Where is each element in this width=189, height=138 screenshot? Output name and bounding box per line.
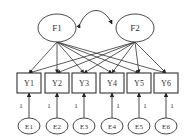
indicator-y4: Y4: [100, 73, 124, 93]
error-e1: E11: [18, 93, 40, 134]
error-weight: 1: [170, 102, 174, 110]
indicator-y2: Y2: [45, 73, 69, 93]
error-label: E5: [135, 123, 143, 131]
indicator-label: Y5: [134, 79, 144, 88]
sem-diagram: F1 F2 Y1E11Y2E21Y3E31Y4E41Y5E51Y6E61: [0, 0, 189, 138]
error-label: E4: [108, 123, 116, 131]
error-label: E3: [80, 123, 88, 131]
error-e5: E51: [128, 93, 150, 134]
covariance-arrow: [80, 11, 112, 25]
error-e4: E41: [101, 93, 123, 134]
factor-loadings: [29, 42, 166, 73]
error-label: E1: [25, 123, 33, 131]
error-weight: 1: [116, 102, 120, 110]
error-weight: 1: [19, 102, 23, 110]
error-weight: 1: [143, 102, 147, 110]
factor-f2: F2: [116, 14, 154, 42]
indicator-label: Y2: [52, 79, 62, 88]
loading-arrow: [57, 42, 112, 73]
indicator-y5: Y5: [127, 73, 151, 93]
error-weight: 1: [47, 102, 51, 110]
indicator-label: Y1: [24, 79, 34, 88]
indicator-label: Y6: [161, 79, 171, 88]
error-label: E2: [53, 123, 61, 131]
loading-arrow: [57, 42, 84, 73]
error-e6: E61: [155, 93, 177, 134]
error-weight: 1: [74, 102, 78, 110]
indicator-y1: Y1: [17, 73, 41, 93]
indicator-label: Y4: [107, 79, 117, 88]
loading-arrow: [29, 42, 57, 73]
factor-label: F1: [52, 23, 62, 33]
error-e2: E21: [46, 93, 68, 134]
loading-arrow: [57, 42, 166, 73]
error-label: E6: [162, 123, 170, 131]
factor-label: F2: [130, 23, 140, 33]
factor-f1: F1: [38, 14, 76, 42]
loading-arrow: [135, 42, 139, 73]
indicators: Y1E11Y2E21Y3E31Y4E41Y5E51Y6E61: [17, 73, 178, 134]
indicator-y6: Y6: [154, 73, 178, 93]
indicator-label: Y3: [79, 79, 89, 88]
indicator-y3: Y3: [72, 73, 96, 93]
error-e3: E31: [73, 93, 95, 134]
loading-arrow: [29, 42, 135, 73]
